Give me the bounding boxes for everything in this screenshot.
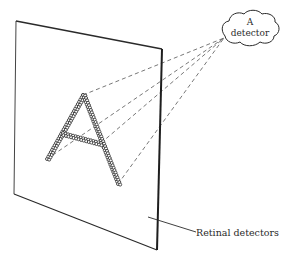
detector-label-word: detector: [231, 28, 270, 38]
retina-leader-line: [148, 217, 196, 232]
diagram-canvas: Retinal detectors A detector: [0, 0, 298, 267]
retina-label: Retinal detectors: [196, 227, 279, 238]
detector-cloud: A detector: [222, 10, 279, 46]
retinal-letter-a: [46, 94, 122, 187]
detector-label-letter: A: [246, 17, 254, 27]
retina-plane: [14, 21, 162, 250]
